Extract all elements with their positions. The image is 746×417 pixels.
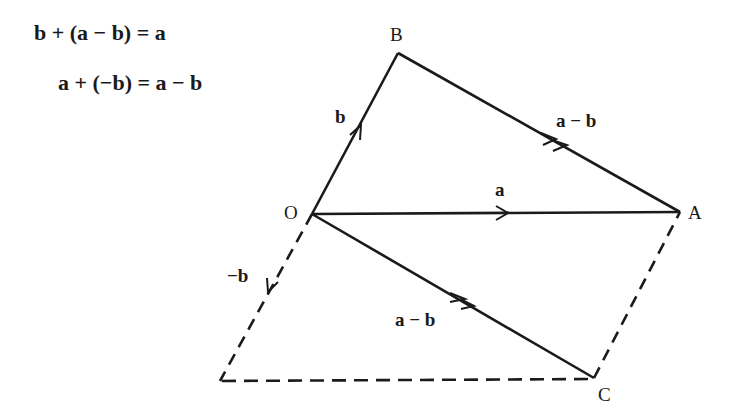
point-label-C: C — [598, 384, 611, 406]
vector-label-a-minus-b-top: a − b — [556, 110, 596, 132]
parallelogram-diagram — [0, 0, 746, 417]
vector-a-line — [312, 212, 680, 214]
dashed-side-line — [594, 212, 680, 378]
vector-label-a: a — [495, 179, 505, 201]
point-label-B: B — [390, 24, 403, 46]
vector-b-line — [312, 53, 398, 214]
vector-label-b: b — [335, 106, 346, 128]
vector-a-minus-b-top-line — [398, 53, 680, 212]
vector-neg-b-dashed-line — [220, 214, 312, 381]
dashed-base-line — [222, 379, 594, 381]
vector-label-a-minus-b-bottom: a − b — [395, 309, 435, 331]
point-label-O: O — [284, 202, 298, 224]
vector-a-minus-b-bottom-line — [312, 214, 594, 378]
vector-label-neg-b: −b — [227, 265, 248, 287]
point-label-A: A — [688, 202, 702, 224]
